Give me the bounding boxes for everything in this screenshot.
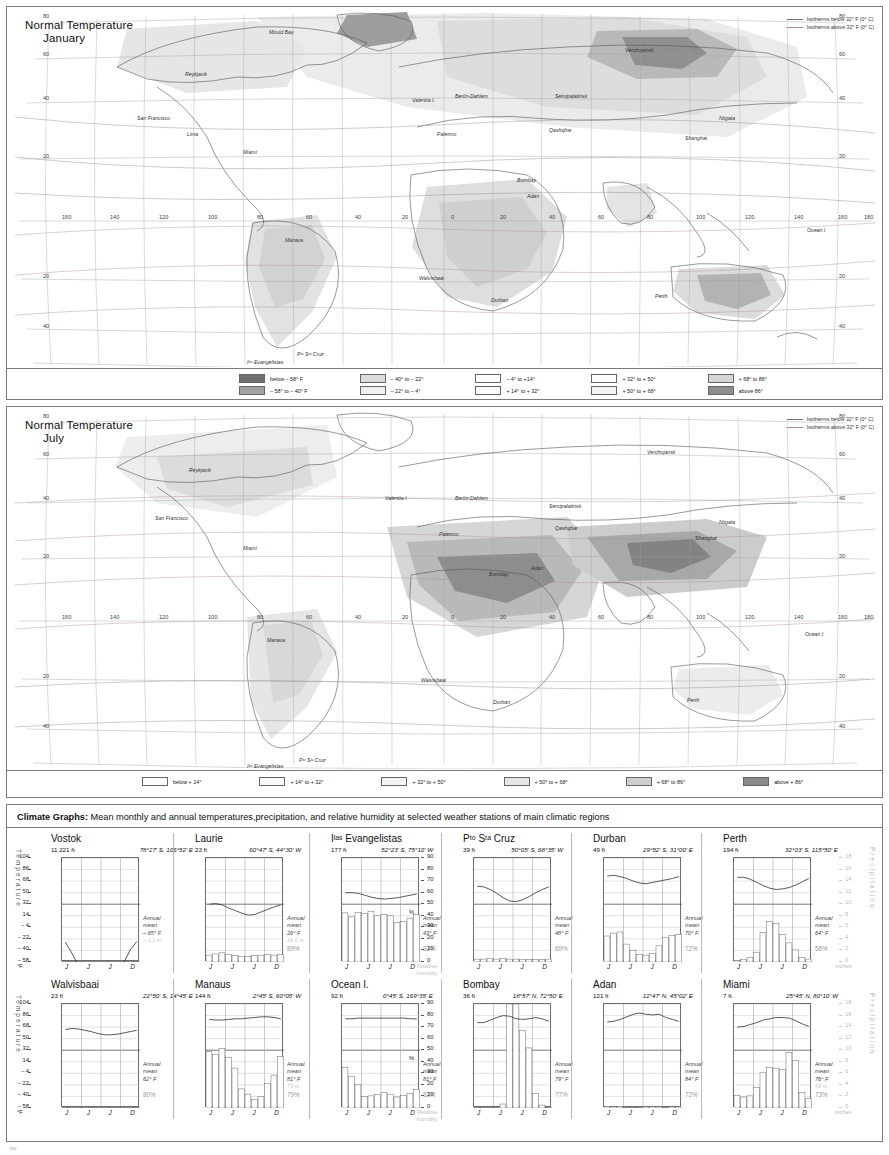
world-map-january-graphic — [7, 7, 882, 399]
temperature-tick — [28, 1107, 31, 1108]
precipitation-tick-label: 8 — [845, 911, 848, 917]
legend-label: + 14° to + 32° — [506, 388, 539, 394]
map-place-label: Shanghai — [685, 135, 707, 141]
month-label: J — [253, 963, 256, 970]
legend-swatch — [142, 777, 168, 786]
percent-tick — [421, 903, 424, 904]
station-coordinates: 18°57′ N, 72°50′ E — [513, 992, 563, 999]
percent-tick — [421, 1003, 424, 1004]
annual-mean-value: 64° F — [815, 930, 832, 937]
percent-tick-label: 60 — [427, 888, 433, 894]
map-grid-label: 60 — [839, 51, 845, 57]
legend-label: above 86° — [739, 388, 763, 394]
station-altitude: 23 ft — [51, 992, 63, 999]
temperature-tick — [28, 903, 31, 904]
month-labels: JJJD — [733, 963, 811, 970]
month-label: D — [542, 1109, 547, 1116]
map-title-line2: July — [25, 432, 133, 445]
precipitation-scale: 181614121086420 — [839, 857, 863, 961]
precipitation-tick — [839, 1003, 842, 1004]
temperature-tick-label: – 22 — [18, 1080, 29, 1086]
temperature-tick-label: 50 — [23, 888, 29, 894]
station-chart-graphic — [206, 1004, 284, 1108]
month-label: J — [759, 1109, 762, 1116]
precipitation-tick — [839, 938, 842, 939]
legend-label: + 68° to 86° — [657, 779, 685, 785]
station-chart — [473, 857, 551, 961]
annual-mean-value: 26° F — [287, 930, 304, 937]
station-annotation: Annualmean64° F 56% — [815, 915, 832, 952]
map-grid-label: 160 — [62, 214, 71, 220]
precipitation-tick-label: 6 — [845, 922, 848, 928]
month-label: J — [759, 963, 762, 970]
annual-precip-value: 73 in — [287, 1083, 304, 1090]
map-grid-label: 80 — [839, 13, 845, 19]
temperature-tick — [28, 1061, 31, 1062]
station-chart — [205, 1003, 283, 1107]
annual-precip-value — [685, 1083, 702, 1090]
annual-mean-label: Annualmean — [143, 1061, 160, 1076]
month-label: J — [65, 1109, 68, 1116]
month-label: J — [629, 963, 632, 970]
map-grid-label: 20 — [43, 553, 49, 559]
precipitation-tick — [839, 961, 842, 962]
page-number: 183 — [9, 1146, 16, 1151]
station-coordinates: 12°47′ N, 45°02′ E — [643, 992, 693, 999]
map-grid-label: 120 — [159, 614, 168, 620]
temperature-scale: 1048668503214– 4– 22– 40– 58 — [7, 1003, 31, 1107]
climate-heading-rest: Mean monthly and annual temperatures,pre… — [88, 812, 609, 822]
map-grid-label: 100 — [208, 614, 217, 620]
map-panel-january: Normal Temperature January Isotherms bel… — [6, 6, 883, 400]
map-title-line2: January — [25, 32, 133, 45]
map-place-label: Walvisbaai — [419, 275, 444, 281]
temperature-tick — [28, 1026, 31, 1027]
map-canvas-july — [7, 407, 882, 797]
month-label: D — [672, 1109, 677, 1116]
station-coordinates: 50°05′ S, 68°35′ W — [511, 846, 563, 853]
month-label: J — [389, 963, 392, 970]
station-chart — [61, 1003, 139, 1107]
station-panel: Pᵗᵒ Sᵗᵃ Cruz39 ft50°05′ S, 68°35′ WAnnua… — [447, 833, 577, 979]
map-place-label: Bombay — [517, 177, 536, 183]
temperature-tick-label: 14 — [23, 911, 29, 917]
map-grid-label: 40 — [839, 723, 845, 729]
percent-tick-label: 10 — [427, 1091, 433, 1097]
isotherm-key-january: Isotherms below 32° F (0° C) Isotherms a… — [787, 15, 874, 31]
map-place-label: Walvisbaai — [421, 677, 446, 683]
annual-mean-value: 79° F — [555, 1076, 572, 1083]
legend-swatch — [708, 386, 734, 395]
month-label: J — [389, 1109, 392, 1116]
percent-tick — [421, 1026, 424, 1027]
map-grid-label: 80 — [647, 614, 653, 620]
map-place-label: Reykjavik — [189, 467, 211, 473]
temperature-tick-label: – 22 — [18, 934, 29, 940]
station-name: Pᵗᵒ Sᵗᵃ Cruz — [463, 833, 515, 844]
annual-mean-value: – 65° F — [143, 930, 161, 937]
temperature-tick-label: 68 — [23, 876, 29, 882]
precipitation-tick — [839, 1084, 842, 1085]
month-label: D — [542, 963, 547, 970]
precipitation-tick — [839, 1107, 842, 1108]
month-label: J — [499, 1109, 502, 1116]
station-annotation: Annualmean70° F 72% — [685, 915, 702, 952]
precipitation-tick-label: 18 — [845, 999, 851, 1005]
legend-swatch — [475, 386, 501, 395]
legend-swatch — [591, 374, 617, 383]
temperature-tick-label: 86 — [23, 1011, 29, 1017]
map-grid-label: 20 — [43, 153, 49, 159]
station-name: Manaus — [195, 979, 231, 990]
map-place-label: Bombay — [489, 571, 508, 577]
temperature-tick — [28, 961, 31, 962]
station-name: Vostok — [51, 833, 81, 844]
station-panel: Laurie23 ft60°47′ S, 44°30′ WAnnualmean2… — [179, 833, 315, 979]
percent-tick-label: 90 — [427, 853, 433, 859]
percent-tick — [421, 1072, 424, 1073]
legend-group: + 68° to 86° above 86° — [708, 374, 767, 395]
map-place-label: Durban — [491, 297, 508, 303]
station-panel: Bombay36 ft18°57′ N, 72°50′ EAnnualmean7… — [447, 979, 577, 1125]
legend-group: – 40° to – 22° – 22° to – 4° — [360, 374, 424, 395]
annual-precip-value — [555, 937, 572, 944]
humidity-value: 69% — [555, 945, 572, 952]
percent-symbol: % — [409, 909, 414, 915]
isotherm-above-line-icon — [787, 27, 803, 28]
